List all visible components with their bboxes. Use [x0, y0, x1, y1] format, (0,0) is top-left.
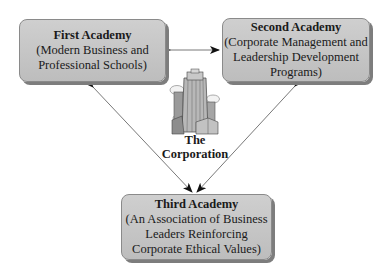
- node-second-academy: Second Academy (Corporate Management and…: [222, 18, 370, 82]
- node-third-academy: Third Academy (An Association of Busines…: [121, 194, 272, 260]
- center-label: The Corporation: [150, 133, 240, 161]
- node-title: First Academy: [20, 28, 165, 43]
- center-label-line2: Corporation: [150, 147, 240, 161]
- node-line: (Modern Business and: [20, 43, 165, 58]
- node-line: (An Association of Business: [122, 212, 271, 227]
- node-line: Leadership Development: [223, 50, 369, 65]
- node-title: Second Academy: [223, 20, 369, 35]
- node-line: (Corporate Management and: [223, 35, 369, 50]
- node-line: Programs): [223, 65, 369, 80]
- node-line: Corporate Ethical Values): [122, 242, 271, 257]
- node-title: Third Academy: [122, 197, 271, 212]
- node-first-academy: First Academy (Modern Business and Profe…: [19, 19, 166, 82]
- center-label-line1: The: [150, 133, 240, 147]
- node-line: Leaders Reinforcing: [122, 227, 271, 242]
- node-line: Professional Schools): [20, 58, 165, 73]
- building-icon: [168, 68, 222, 136]
